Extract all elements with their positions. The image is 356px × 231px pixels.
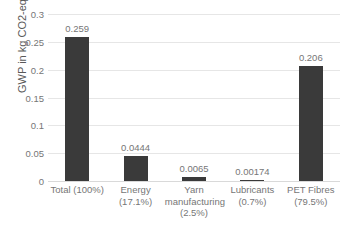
x-axis-tick-labels: Total (100%)Energy(17.1%)Yarnmanufacturi… [48,184,340,231]
x-tick-label: Yarnmanufacturing(2.5%) [165,184,223,219]
y-tick-label: 0.2 [0,64,44,75]
x-tick-label-line: (17.1%) [106,196,164,208]
bar-value-label: 0.259 [65,23,89,34]
gridline [48,181,340,182]
bar-series: 0.2590.04440.00650.001740.206 [48,14,340,181]
bar-group: 0.0065 [165,14,223,181]
x-tick-label-line: Lubricants [223,184,281,196]
bar-group: 0.0444 [106,14,164,181]
bar-chart: GWP in kg CO2-eq 00.050.10.150.20.250.3 … [0,0,356,231]
x-tick-label: Lubricants(0.7%) [223,184,281,207]
bar [182,177,206,181]
x-tick-label-line: PET Fibres [282,184,340,196]
y-tick-label: 0.15 [0,92,44,103]
y-tick-label: 0.3 [0,9,44,20]
bar-value-label: 0.206 [299,52,323,63]
x-tick-label: Energy(17.1%) [106,184,164,207]
bar-value-label: 0.0065 [179,163,208,174]
bar-value-label: 0.0444 [121,142,150,153]
x-tick-label: Total (100%) [48,184,106,196]
bar-group: 0.00174 [223,14,281,181]
y-tick-label: 0 [0,176,44,187]
y-tick-label: 0.1 [0,120,44,131]
bar-value-label: 0.00174 [235,166,269,177]
x-tick-label-line: (0.7%) [223,196,281,208]
bar [299,66,323,181]
x-tick-label-line: (2.5%) [165,207,223,219]
bar [65,37,89,181]
y-axis-tick-labels: 00.050.10.150.20.250.3 [0,14,44,181]
bar [124,156,148,181]
bar [240,180,264,182]
y-tick-label: 0.25 [0,36,44,47]
bar-group: 0.206 [282,14,340,181]
x-tick-label-line: Total (100%) [48,184,106,196]
x-tick-label-line: Energy [106,184,164,196]
y-tick-label: 0.05 [0,148,44,159]
x-tick-label-line: manufacturing [165,196,223,208]
x-tick-label-line: (79.5%) [282,196,340,208]
x-tick-label-line: Yarn [165,184,223,196]
x-tick-label: PET Fibres(79.5%) [282,184,340,207]
bar-group: 0.259 [48,14,106,181]
